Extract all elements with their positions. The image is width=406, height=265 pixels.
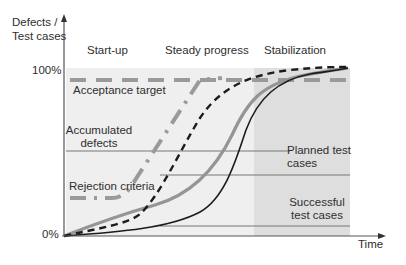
phase-stabilization: Stabilization	[264, 44, 326, 57]
planned-test-cases-label-line2: cases	[287, 157, 317, 170]
x-axis-label: Time	[358, 238, 383, 251]
phase-steady-progress: Steady progress	[165, 44, 249, 57]
y-tick-0: 0%	[42, 228, 59, 241]
successful-test-cases-label-line2: test cases	[282, 209, 352, 222]
phase-startup: Start-up	[87, 44, 128, 57]
y-axis-label-line1: Defects /	[12, 16, 57, 29]
acceptance-target-label: Acceptance target	[73, 84, 166, 97]
rejection-criteria-label: Rejection criteria	[69, 180, 155, 193]
planned-test-cases-label-line1: Planned test	[287, 144, 351, 157]
accumulated-defects-label-line2: defects	[64, 137, 134, 150]
y-axis-label-line2: Test cases	[12, 30, 66, 43]
successful-test-cases-label-line1: Successful	[282, 196, 352, 209]
y-axis-arrow-icon	[61, 14, 67, 22]
accumulated-defects-label-line1: Accumulated	[64, 124, 134, 137]
y-tick-100: 100%	[32, 64, 61, 77]
